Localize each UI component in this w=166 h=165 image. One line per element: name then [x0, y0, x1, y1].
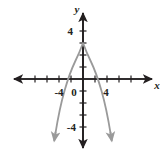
right-branch-arrow: [110, 132, 111, 141]
y-tick-label-neg4: -4: [67, 121, 77, 133]
x-tick-label-0: 0: [71, 86, 77, 98]
coordinate-plane-svg: 4 -4 0 4 -4 y x: [0, 0, 166, 165]
x-axis-label: x: [153, 79, 160, 91]
parabola-graph-figure: 4 -4 0 4 -4 y x: [0, 0, 166, 165]
y-tick-label-4: 4: [68, 25, 74, 37]
x-tick-label-neg4: -4: [54, 86, 64, 98]
left-branch-arrow: [54, 132, 55, 141]
x-tick-label-4: 4: [103, 86, 109, 98]
y-axis-label: y: [73, 3, 80, 15]
